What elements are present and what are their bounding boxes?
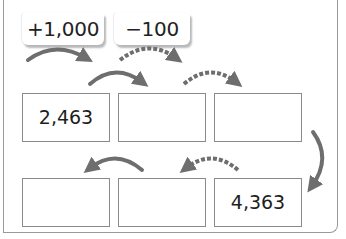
- row1-dashed-arrow-icon: [184, 72, 236, 84]
- box-row1-col1: 2,463: [22, 93, 110, 142]
- legend-dashed-arrow-icon: [120, 48, 176, 60]
- box-row2-col2[interactable]: [118, 178, 206, 227]
- box-row2-col3: 4,363: [214, 178, 302, 227]
- row2-dashed-arrow-icon: [186, 158, 238, 170]
- legend-solid-arrow-icon: [28, 49, 86, 60]
- row1-solid-arrow-icon: [90, 72, 142, 84]
- turn-down-arrow-icon: [312, 132, 322, 186]
- box-row2-col1[interactable]: [22, 178, 110, 227]
- box-row1-col2[interactable]: [118, 93, 206, 142]
- box-row1-col3[interactable]: [214, 93, 302, 142]
- row2-solid-arrow-icon: [90, 158, 142, 170]
